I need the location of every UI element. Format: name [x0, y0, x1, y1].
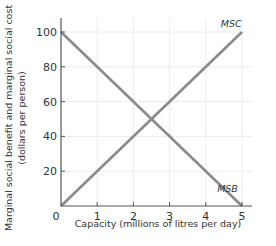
y-tick-label: 100 [36, 26, 57, 39]
y-tick-label: 40 [43, 130, 57, 143]
x-axis-label: Capacity (millions of litres per day) [75, 218, 242, 229]
curve-label-msc: MSC [221, 18, 242, 29]
tick-labels: 01234520406080100 [36, 26, 246, 223]
y-tick-label: 60 [43, 96, 57, 109]
data-series [61, 32, 242, 206]
y-tick-label: 80 [43, 61, 57, 74]
y-axis-label-line1: Marginal social benefit and marginal soc… [3, 5, 14, 231]
chart: 01234520406080100 MSCMSB Capacity (milli… [0, 0, 276, 246]
curve-label-msb: MSB [217, 183, 238, 194]
y-axis-label-line2: (dollars per person) [16, 71, 27, 165]
x-tick-label: 0 [53, 210, 60, 223]
y-tick-label: 20 [43, 165, 57, 178]
